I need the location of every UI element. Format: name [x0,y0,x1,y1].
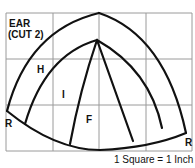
ear-pattern-diagram: EAR (CUT 2) H I F R R 1 Square = 1 Inch [0,0,195,168]
outer-right-edge [99,13,186,133]
label-r-right: R [185,137,193,148]
i-f-seam [70,40,97,144]
label-i: I [62,89,65,100]
label-f: F [86,114,92,125]
f-right-seam [97,40,133,141]
title-line2: (CUT 2) [8,29,44,40]
scale-note: 1 Square = 1 Inch [114,154,193,165]
label-h: H [37,64,44,75]
label-r-left: R [5,118,13,129]
title-line1: EAR [9,18,31,29]
